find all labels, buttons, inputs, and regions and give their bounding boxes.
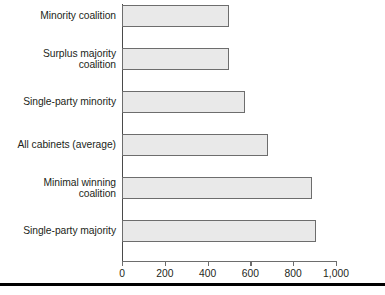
- category-label: Single-party majority: [2, 225, 116, 237]
- bar-chart: Minority coalitionSurplus majority coali…: [0, 0, 385, 295]
- category-label: Single-party minority: [2, 96, 116, 108]
- x-axis-tick: [165, 261, 166, 266]
- x-axis-tick-label: 1,000: [323, 268, 349, 280]
- category-label-column: Minority coalitionSurplus majority coali…: [0, 0, 116, 262]
- category-label: Minimal winning coalition: [2, 177, 116, 200]
- category-label: All cabinets (average): [2, 139, 116, 151]
- x-axis: 02004006008001,000: [122, 261, 377, 295]
- x-axis-tick: [250, 261, 251, 266]
- category-label: Surplus majority coalition: [2, 48, 116, 71]
- x-axis-tick-label: 800: [285, 268, 302, 280]
- bottom-divider: [0, 283, 385, 286]
- bar: [122, 91, 245, 113]
- x-axis-tick: [293, 261, 294, 266]
- x-axis-tick-label: 400: [199, 268, 216, 280]
- x-axis-tick: [208, 261, 209, 266]
- bar: [122, 48, 229, 70]
- bar: [122, 220, 316, 242]
- x-axis-rule: [122, 261, 336, 262]
- x-axis-tick: [122, 261, 123, 266]
- category-label: Minority coalition: [2, 10, 116, 22]
- x-axis-tick-label: 600: [242, 268, 259, 280]
- x-axis-tick-label: 200: [156, 268, 173, 280]
- x-axis-tick: [336, 261, 337, 266]
- bar: [122, 134, 268, 156]
- x-axis-tick-label: 0: [119, 268, 125, 280]
- plot-area: [122, 0, 377, 262]
- bar: [122, 177, 312, 199]
- bar: [122, 5, 229, 27]
